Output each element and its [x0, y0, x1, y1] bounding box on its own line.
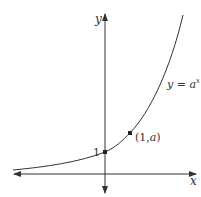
function-label: y = ax [166, 77, 200, 91]
point-one-a-label: (1,a) [135, 131, 161, 144]
function-exponent: x [196, 77, 200, 85]
point-y-intercept [103, 150, 107, 154]
y-intercept-label: 1 [93, 146, 100, 159]
point-one-a-close: ) [156, 131, 160, 144]
exponential-graph: y x 1 (1,a) y = ax [0, 0, 201, 197]
y-axis-label: y [94, 12, 102, 26]
x-axis-label: x [190, 174, 197, 188]
point-one-a [128, 131, 132, 135]
function-eq: = [173, 78, 189, 91]
point-one-a-open: (1, [135, 131, 150, 144]
